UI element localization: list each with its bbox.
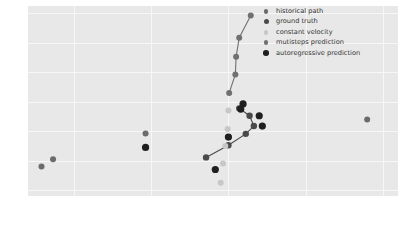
data-point xyxy=(243,131,249,137)
data-point xyxy=(143,130,149,136)
legend-item[interactable]: constant velocity xyxy=(261,27,360,38)
series-ground-truth xyxy=(203,105,257,160)
data-point xyxy=(256,112,263,119)
data-point xyxy=(239,100,246,107)
legend-marker-icon xyxy=(261,30,271,35)
data-point xyxy=(246,113,252,119)
legend-item[interactable]: historical path xyxy=(261,6,360,17)
data-point xyxy=(50,156,56,162)
legend-label: historical path xyxy=(276,8,323,15)
data-point xyxy=(225,126,231,132)
legend-label: autoregressive prediction xyxy=(276,50,360,57)
legend-marker-icon xyxy=(261,19,271,24)
data-point xyxy=(233,54,239,60)
data-point xyxy=(259,122,266,129)
series-mutisteps-prediction xyxy=(226,13,254,96)
data-point xyxy=(203,154,209,160)
data-point xyxy=(220,161,226,167)
data-point xyxy=(232,71,238,77)
legend-label: ground truth xyxy=(276,18,318,25)
legend-item[interactable]: autoregressive prediction xyxy=(261,48,360,59)
series-historical-path xyxy=(38,116,370,169)
legend-label: constant velocity xyxy=(276,29,333,36)
legend-item[interactable]: mutisteps prediction xyxy=(261,38,360,49)
data-point xyxy=(222,143,228,149)
data-point xyxy=(225,133,232,140)
chart-legend: historical pathground truthconstant velo… xyxy=(258,4,363,61)
data-point xyxy=(142,144,149,151)
data-point xyxy=(225,108,231,114)
data-point xyxy=(364,116,370,122)
data-point xyxy=(248,13,254,19)
legend-marker-icon xyxy=(261,9,271,14)
data-point xyxy=(218,180,224,186)
data-point xyxy=(38,164,44,170)
legend-marker-icon xyxy=(261,50,271,56)
data-point xyxy=(212,166,219,173)
series-autoregressive-prediction xyxy=(142,100,266,173)
legend-marker-icon xyxy=(261,40,271,45)
legend-item[interactable]: ground truth xyxy=(261,17,360,28)
series-line xyxy=(229,16,251,93)
data-point xyxy=(226,90,232,96)
chart-figure: 52545658606264 58.458.658.859.059.2 hist… xyxy=(0,0,410,226)
legend-label: mutisteps prediction xyxy=(276,39,344,46)
data-point xyxy=(251,123,257,129)
data-point xyxy=(236,35,242,41)
